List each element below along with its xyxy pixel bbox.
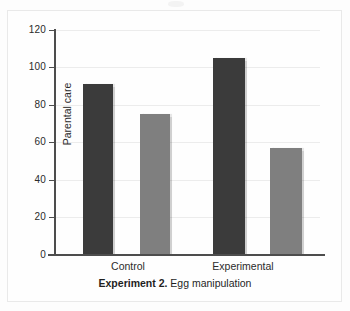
y-tick-mark-20 bbox=[49, 217, 55, 218]
y-tick-label-80: 80 bbox=[12, 99, 46, 110]
caption-rest: Egg manipulation bbox=[167, 277, 251, 289]
y-tick-label-0: 0 bbox=[12, 249, 46, 260]
y-tick-label-120: 120 bbox=[12, 24, 46, 35]
scan-artifact bbox=[168, 1, 184, 7]
bar-control-light bbox=[140, 114, 170, 255]
y-tick-mark-120 bbox=[49, 30, 55, 31]
y-tick-label-40: 40 bbox=[12, 174, 46, 185]
y-tick-mark-100 bbox=[49, 67, 55, 68]
y-tick-label-100: 100 bbox=[12, 61, 46, 72]
x-tick-label-control: Control bbox=[83, 260, 173, 272]
y-tick-label-20: 20 bbox=[12, 211, 46, 222]
y-tick-mark-0 bbox=[49, 255, 55, 256]
y-tick-label-60: 60 bbox=[12, 136, 46, 147]
bar-control-dark bbox=[83, 84, 113, 255]
y-axis-label: Parental care bbox=[61, 54, 73, 174]
plot-area: Parental care bbox=[55, 30, 320, 255]
x-tick-label-experimental: Experimental bbox=[188, 260, 298, 272]
figure-panel: Parental care 120 100 80 60 40 20 0 Cont… bbox=[0, 0, 350, 311]
y-tick-mark-60 bbox=[49, 142, 55, 143]
y-tick-mark-80 bbox=[49, 105, 55, 106]
caption-bold: Experiment 2. bbox=[99, 277, 168, 289]
gridline-100 bbox=[55, 67, 320, 68]
x-axis-line bbox=[48, 254, 325, 256]
y-tick-mark-40 bbox=[49, 180, 55, 181]
gridline-120 bbox=[55, 30, 320, 31]
bar-experimental-light bbox=[270, 148, 302, 255]
figure-caption: Experiment 2. Egg manipulation bbox=[0, 277, 350, 289]
bar-experimental-dark bbox=[213, 58, 245, 255]
